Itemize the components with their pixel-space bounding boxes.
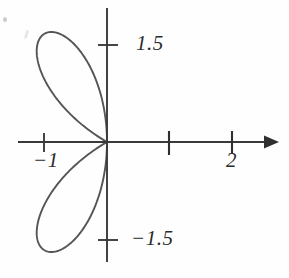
tick-label-y-negative: −1.5: [131, 228, 173, 249]
x-axis-arrowhead: [264, 136, 279, 149]
polar-rose-figure: 1.5 −1.5 −1 2: [0, 0, 289, 278]
tick-label-y-positive: 1.5: [136, 33, 164, 54]
tick-label-x-negative-one: −1: [33, 150, 59, 171]
upper-left-petal: [37, 32, 107, 142]
tick-label-x-two: 2: [226, 150, 237, 171]
